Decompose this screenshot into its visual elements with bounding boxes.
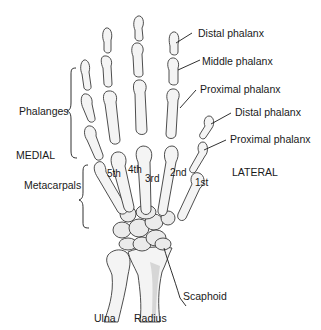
label-metacarpals: Metacarpals xyxy=(24,180,81,191)
label-metacarpal-5th: 5th xyxy=(107,169,121,179)
finger-3-phalanges xyxy=(132,16,147,135)
label-metacarpal-1st: 1st xyxy=(195,178,208,188)
leader-thumb-distal-phalanx xyxy=(211,113,231,124)
scaphoid-bone xyxy=(155,238,171,250)
metacarpals-brace xyxy=(79,165,89,228)
label-thumb-distal-phalanx: Distal phalanx xyxy=(235,107,301,118)
label-medial: MEDIAL xyxy=(16,150,55,161)
hand-skeleton-diagram: Distal phalanx Middle phalanx Proximal p… xyxy=(0,0,321,330)
hand-bones-illustration xyxy=(0,0,321,330)
finger-2-phalanges xyxy=(166,32,179,139)
label-middle-phalanx: Middle phalanx xyxy=(202,56,273,67)
label-metacarpal-4th: 4th xyxy=(128,165,142,175)
leader-thumb-proximal-phalanx xyxy=(204,140,226,150)
leader-middle-phalanx xyxy=(178,60,200,70)
thumb-phalanges xyxy=(190,116,214,173)
label-metacarpal-2nd: 2nd xyxy=(170,168,187,178)
label-metacarpal-3rd: 3rd xyxy=(145,174,159,184)
finger-4-phalanges xyxy=(101,28,120,144)
label-scaphoid: Scaphoid xyxy=(183,291,227,302)
label-proximal-phalanx: Proximal phalanx xyxy=(200,84,281,95)
label-radius: Radius xyxy=(134,313,167,324)
radius-bone xyxy=(128,247,172,322)
label-lateral: LATERAL xyxy=(232,167,278,178)
leader-proximal-phalanx xyxy=(180,90,196,108)
label-thumb-proximal-phalanx: Proximal phalanx xyxy=(230,134,311,145)
label-phalanges: Phalanges xyxy=(19,106,69,117)
label-ulna: Ulna xyxy=(94,313,116,324)
metacarpal-2 xyxy=(158,146,178,216)
label-distal-phalanx: Distal phalanx xyxy=(198,28,264,39)
finger-5-phalanges xyxy=(81,60,103,160)
